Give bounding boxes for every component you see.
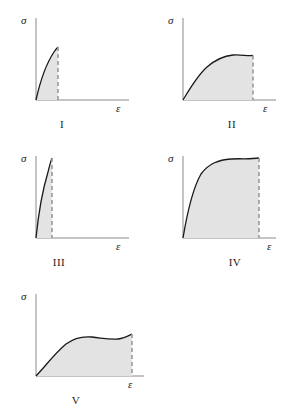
panel-III-plot: σ ε <box>16 150 136 250</box>
panel-caption-IV: IV <box>205 256 265 268</box>
panel-caption-V: V <box>46 394 106 406</box>
panel-II-plot: σ ε <box>163 12 283 112</box>
panel-I: σ ε I <box>16 12 136 112</box>
panel-IV: σ ε IV <box>163 150 283 250</box>
panel-I-plot: σ ε <box>16 12 136 112</box>
x-axis-label-V: ε <box>128 378 133 388</box>
panel-IV-plot: σ ε <box>163 150 283 250</box>
x-axis-label-II: ε <box>263 102 268 112</box>
y-axis-label-V: σ <box>21 290 27 302</box>
panel-caption-III: III <box>29 256 89 268</box>
x-axis-label-I: ε <box>116 102 121 112</box>
area-fill-I <box>36 47 58 100</box>
x-axis-label-IV: ε <box>267 240 272 250</box>
panel-caption-I: I <box>32 118 92 130</box>
panel-V-plot: σ ε <box>16 288 151 388</box>
y-axis-label-II: σ <box>168 14 174 26</box>
y-axis-label-III: σ <box>21 152 27 164</box>
area-fill-III <box>36 158 52 238</box>
y-axis-label-I: σ <box>21 14 27 26</box>
panel-V: σ ε V <box>16 288 151 388</box>
area-fill-II <box>183 55 253 100</box>
x-axis-label-III: ε <box>116 240 121 250</box>
area-fill-V <box>36 334 132 376</box>
stress-strain-figure: σ ε I σ ε II σ ε <box>0 0 294 411</box>
panel-III: σ ε III <box>16 150 136 250</box>
panel-II: σ ε II <box>163 12 283 112</box>
y-axis-label-IV: σ <box>168 152 174 164</box>
panel-caption-II: II <box>202 118 262 130</box>
area-fill-IV <box>183 158 259 238</box>
